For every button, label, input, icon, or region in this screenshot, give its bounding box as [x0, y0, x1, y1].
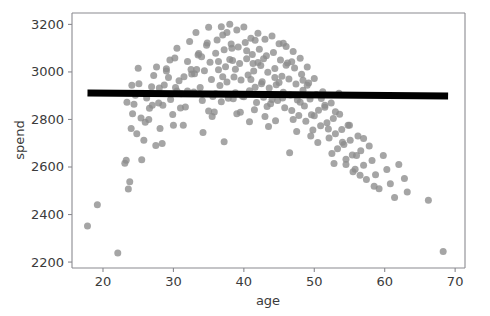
- datapoint: [238, 77, 245, 84]
- datapoint: [328, 150, 335, 157]
- datapoint: [94, 201, 101, 208]
- datapoint: [159, 140, 166, 147]
- datapoint: [317, 122, 324, 129]
- datapoint: [219, 73, 226, 80]
- datapoint: [342, 161, 349, 168]
- datapoint: [130, 101, 137, 108]
- datapoint: [307, 133, 314, 140]
- datapoint: [236, 60, 243, 67]
- datapoint: [170, 122, 177, 129]
- datapoint: [325, 125, 332, 132]
- datapoint: [404, 188, 411, 195]
- datapoint: [288, 107, 295, 114]
- datapoint: [150, 72, 157, 79]
- datapoint: [218, 98, 225, 105]
- datapoint: [184, 58, 191, 65]
- datapoint: [291, 64, 298, 71]
- datapoint: [247, 76, 254, 83]
- datapoint: [334, 145, 341, 152]
- datapoint: [369, 157, 376, 164]
- datapoint: [363, 176, 370, 183]
- datapoint: [128, 82, 135, 89]
- datapoint: [215, 66, 222, 73]
- datapoint: [214, 37, 221, 44]
- datapoint: [252, 37, 259, 44]
- datapoint: [311, 112, 318, 119]
- datapoint: [372, 171, 379, 178]
- datapoint: [221, 138, 228, 145]
- datapoint: [123, 99, 130, 106]
- datapoint: [321, 102, 328, 109]
- datapoint: [277, 57, 284, 64]
- axes-background: [72, 13, 465, 268]
- datapoint: [383, 166, 390, 173]
- datapoint: [243, 55, 250, 62]
- datapoint: [261, 36, 268, 43]
- datapoint: [123, 157, 130, 164]
- datapoint: [204, 39, 211, 46]
- x-tick-label: 20: [95, 274, 112, 289]
- datapoint: [331, 160, 338, 167]
- y-tick-label: 2200: [31, 255, 64, 270]
- datapoint: [135, 80, 142, 87]
- datapoint: [265, 123, 272, 130]
- x-tick-label: 70: [447, 274, 464, 289]
- datapoint: [271, 74, 278, 81]
- datapoint: [347, 137, 354, 144]
- datapoint: [346, 122, 353, 129]
- datapoint: [159, 102, 166, 109]
- datapoint: [230, 73, 237, 80]
- datapoint: [264, 103, 271, 110]
- datapoint: [281, 104, 288, 111]
- datapoint: [323, 119, 330, 126]
- datapoint: [290, 116, 297, 123]
- datapoint: [295, 112, 302, 119]
- datapoint: [201, 67, 208, 74]
- datapoint: [208, 76, 215, 83]
- datapoint: [129, 110, 136, 117]
- datapoint: [256, 46, 263, 53]
- datapoint: [272, 117, 279, 124]
- x-tick-label: 60: [376, 274, 393, 289]
- datapoint: [391, 194, 398, 201]
- datapoint: [360, 162, 367, 169]
- datapoint: [135, 65, 142, 72]
- y-axis-title: spend: [12, 120, 27, 160]
- datapoint: [145, 116, 152, 123]
- datapoint: [223, 29, 230, 36]
- datapoint: [288, 58, 295, 65]
- datapoint: [254, 30, 261, 37]
- datapoint: [207, 59, 214, 66]
- datapoint: [302, 118, 309, 125]
- datapoint: [180, 73, 187, 80]
- y-tick-label: 2600: [31, 159, 64, 174]
- datapoint: [125, 186, 132, 193]
- datapoint: [232, 66, 239, 73]
- datapoint: [133, 130, 140, 137]
- fit-line: [87, 93, 448, 96]
- datapoint: [205, 24, 212, 31]
- datapoint: [177, 105, 184, 112]
- datapoint: [252, 84, 259, 91]
- datapoint: [226, 21, 233, 28]
- datapoint: [425, 197, 432, 204]
- datapoint: [266, 85, 273, 92]
- datapoint: [251, 106, 258, 113]
- datapoint: [166, 57, 173, 64]
- datapoint: [152, 142, 159, 149]
- datapoint: [297, 55, 304, 62]
- regression-line: [87, 93, 448, 96]
- datapoint: [240, 24, 247, 31]
- datapoint: [350, 168, 357, 175]
- datapoint: [163, 67, 170, 74]
- datapoint: [292, 81, 299, 88]
- datapoint: [278, 73, 285, 80]
- y-tick-label: 2400: [31, 207, 64, 222]
- datapoint: [226, 56, 233, 63]
- datapoint: [270, 49, 277, 56]
- x-tick-label: 30: [165, 274, 182, 289]
- datapoint: [237, 109, 244, 116]
- datapoint: [261, 113, 268, 120]
- datapoint: [332, 108, 339, 115]
- datapoint: [332, 130, 339, 137]
